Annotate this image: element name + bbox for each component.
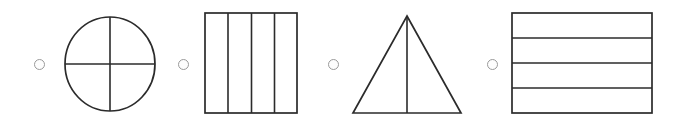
answer-option-d[interactable]: [480, 0, 678, 130]
rectangle-divided-into-horizontal-strips-icon: [0, 0, 678, 130]
equal-parts-choice-figure: [0, 0, 678, 130]
